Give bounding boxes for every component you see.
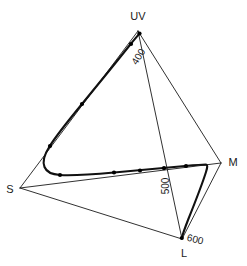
edge-uv-m bbox=[138, 31, 221, 163]
edge-uv-l bbox=[138, 31, 182, 239]
locus-marker-380nm bbox=[137, 31, 141, 35]
locus-marker-470nm bbox=[48, 144, 52, 148]
tetrahedral-colour-space-plot: UVSML 400500600 bbox=[0, 0, 247, 266]
edge-s-m bbox=[20, 163, 221, 188]
edge-m-l bbox=[182, 163, 221, 239]
edge-uv-s bbox=[20, 31, 138, 188]
spectral-locus-curve bbox=[44, 34, 208, 239]
locus-marker-540nm bbox=[184, 164, 188, 168]
edge-s-l bbox=[20, 188, 182, 239]
spectral-locus bbox=[44, 34, 208, 239]
wavelength-label-500: 500 bbox=[160, 177, 171, 194]
locus-marker-400nm bbox=[129, 42, 133, 46]
locus-marker-510nm bbox=[138, 168, 142, 172]
vertex-label-s: S bbox=[6, 183, 13, 195]
wavelength-label-600: 600 bbox=[186, 232, 205, 247]
locus-marker-440nm bbox=[80, 102, 84, 106]
figure-root: UVSML 400500600 bbox=[0, 0, 247, 266]
spectral-locus-markers bbox=[48, 31, 188, 240]
locus-marker-600nm bbox=[180, 236, 184, 240]
vertex-label-l: L bbox=[181, 247, 187, 259]
vertex-label-uv: UV bbox=[130, 10, 146, 22]
locus-marker-500nm bbox=[112, 170, 116, 174]
tetrahedron-edges bbox=[20, 31, 221, 239]
vertex-label-m: M bbox=[228, 156, 237, 168]
locus-marker-520nm bbox=[162, 166, 166, 170]
locus-marker-490nm bbox=[58, 173, 62, 177]
